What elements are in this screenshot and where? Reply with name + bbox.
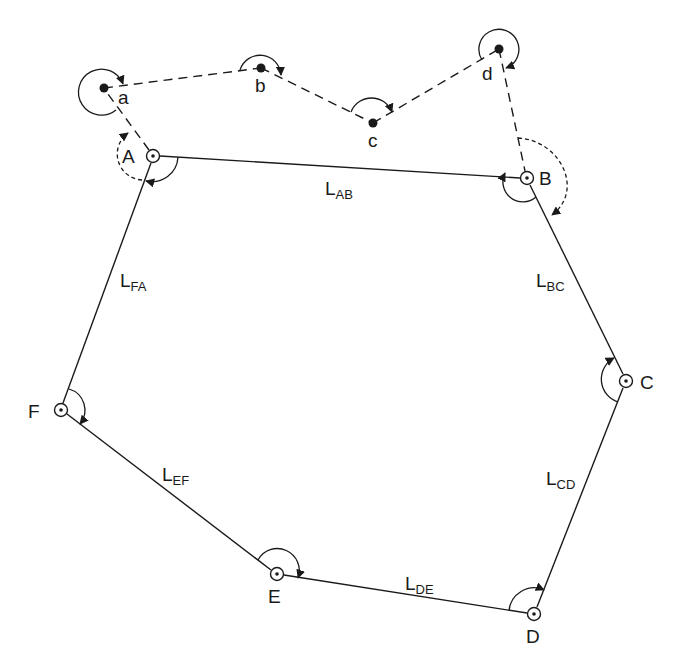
leg-d-B <box>499 49 525 171</box>
station-F <box>55 404 68 417</box>
label-C: C <box>640 372 654 393</box>
leg-labels: LAB LBC LCD LDE LEF LFA <box>120 178 575 597</box>
point-c <box>369 119 378 128</box>
station-D <box>528 608 541 621</box>
aux-labels: a b c d <box>118 63 493 151</box>
angle-arc-D <box>509 588 544 611</box>
angle-arc-c <box>351 98 392 112</box>
closed-traverse <box>63 156 623 613</box>
open-traverse <box>104 49 525 171</box>
leg-EF <box>67 414 271 570</box>
leg-a-b <box>104 68 261 88</box>
label-d: d <box>482 63 493 84</box>
leg-CD <box>537 388 623 607</box>
label-L-AB: LAB <box>325 178 353 202</box>
point-a <box>100 84 109 93</box>
station-A <box>147 150 160 163</box>
label-b: b <box>255 75 266 96</box>
label-L-EF: LEF <box>162 464 189 488</box>
station-C <box>620 375 633 388</box>
point-b <box>257 64 266 73</box>
station-B <box>521 172 534 185</box>
label-L-DE: LDE <box>405 573 434 597</box>
label-c: c <box>368 130 378 151</box>
label-E: E <box>268 586 281 607</box>
label-L-FA: LFA <box>120 270 147 294</box>
angle-arc-C <box>601 358 618 402</box>
station-E <box>271 568 284 581</box>
angle-arc-a <box>78 69 123 115</box>
label-L-CD: LCD <box>546 468 575 492</box>
station-symbols <box>55 150 633 621</box>
label-L-BC: LBC <box>536 270 565 294</box>
label-F: F <box>28 401 40 422</box>
label-a: a <box>118 87 129 108</box>
point-d <box>495 45 504 54</box>
angle-arc-F <box>69 389 85 424</box>
label-D: D <box>526 626 540 647</box>
angle-arcs <box>69 29 618 611</box>
aux-points <box>100 45 504 128</box>
leg-AB <box>160 156 520 178</box>
traverse-diagram: A B C D E F a b c d LAB LBC LCD LDE LEF … <box>0 0 673 665</box>
label-B: B <box>539 168 552 189</box>
leg-b-c <box>261 68 373 123</box>
station-labels: A B C D E F <box>28 146 654 647</box>
label-A: A <box>122 146 135 167</box>
